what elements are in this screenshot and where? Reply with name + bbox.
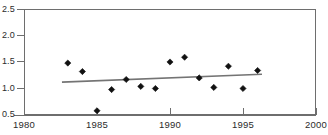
data-point — [79, 68, 85, 74]
data-point — [94, 108, 100, 114]
data-point — [167, 59, 173, 65]
data-points — [65, 54, 261, 114]
data-point — [182, 54, 188, 60]
data-point — [109, 86, 115, 92]
data-point-layer — [0, 0, 328, 135]
data-point — [65, 60, 71, 66]
data-point — [152, 85, 158, 91]
data-point — [123, 76, 129, 82]
scatter-chart: 2.5 2.0 1.5 1.0 0.5 1980 1985 1990 1995 … — [0, 0, 328, 135]
data-point — [225, 63, 231, 69]
data-point — [138, 83, 144, 89]
data-point — [240, 85, 246, 91]
data-point — [211, 84, 217, 90]
data-point — [196, 75, 202, 81]
data-point — [255, 67, 261, 73]
